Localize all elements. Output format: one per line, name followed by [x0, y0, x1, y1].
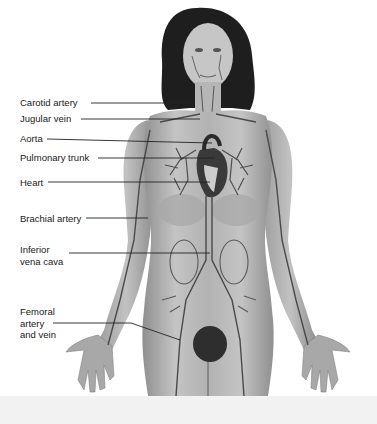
- label-femoral-line-3: and vein: [20, 329, 56, 341]
- label-ivc-line-2: vena cava: [20, 256, 63, 268]
- circulatory-system-illustration: [0, 0, 377, 424]
- label-aorta: Aorta: [20, 133, 43, 145]
- label-brachial-artery: Brachial artery: [20, 213, 81, 225]
- label-pulmonary-trunk: Pulmonary trunk: [20, 152, 89, 164]
- pubic-region: [193, 326, 227, 362]
- label-femoral-artery-and-vein: Femoral artery and vein: [20, 306, 56, 341]
- head: [183, 23, 233, 89]
- right-hand: [302, 335, 350, 392]
- label-femoral-line-1: Femoral: [20, 306, 56, 318]
- label-inferior-vena-cava: Inferior vena cava: [20, 244, 63, 267]
- label-carotid-artery: Carotid artery: [20, 97, 78, 109]
- left-hand: [66, 335, 114, 392]
- label-ivc-line-1: Inferior: [20, 244, 63, 256]
- label-jugular-vein: Jugular vein: [20, 113, 71, 125]
- bottom-margin: [0, 396, 377, 424]
- label-heart: Heart: [20, 177, 43, 189]
- label-femoral-line-2: artery: [20, 318, 56, 330]
- neck: [195, 82, 221, 112]
